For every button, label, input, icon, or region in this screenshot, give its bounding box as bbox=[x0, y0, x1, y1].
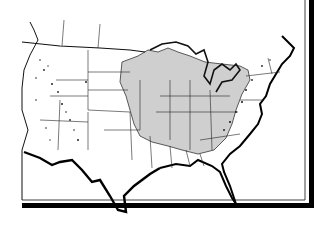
us-map bbox=[0, 0, 319, 232]
map-figure bbox=[0, 0, 319, 232]
canada-border bbox=[22, 42, 145, 52]
shaded-region bbox=[120, 48, 250, 154]
us-outline-west bbox=[22, 22, 38, 200]
gulf-coast bbox=[160, 160, 236, 204]
